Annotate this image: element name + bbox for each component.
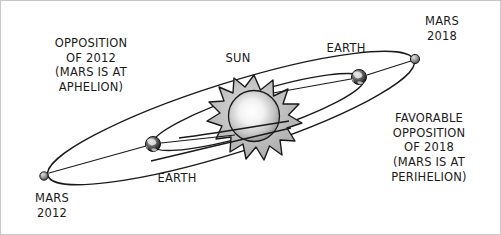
sun-label: SUN: [217, 51, 259, 66]
earth-right-body: [352, 70, 367, 86]
mars-2012-body: [40, 172, 48, 180]
sun-body: [207, 75, 302, 160]
mars-2012-label: MARS 2012: [21, 191, 83, 220]
mars-2018-label: MARS 2018: [411, 14, 473, 43]
earth-right-label: EARTH: [315, 41, 377, 56]
diagram-canvas: SUN EARTH EARTH MARS 2018 MARS 2012 OPPO…: [0, 0, 501, 235]
opposition-2018-annotation: FAVORABLE OPPOSITION OF 2018 (MARS IS AT…: [359, 111, 499, 185]
mars-2018-body: [410, 54, 419, 63]
opposition-2012-annotation: OPPOSITION OF 2012 (MARS IS AT APHELION): [15, 36, 167, 95]
earth-left-label: EARTH: [146, 171, 208, 186]
